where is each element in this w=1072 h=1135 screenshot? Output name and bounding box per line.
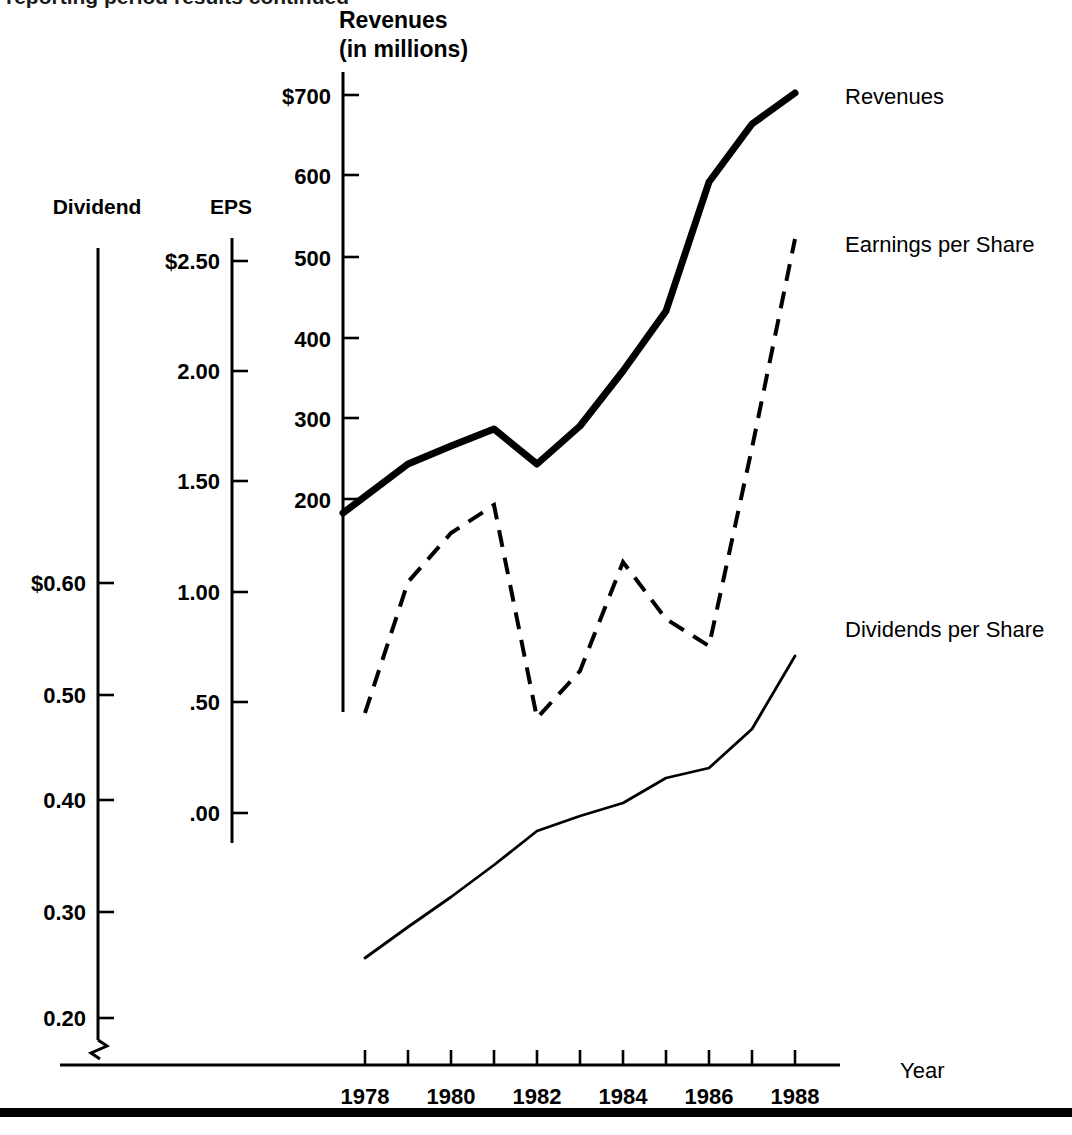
year-tick-label-0: 1978 — [341, 1084, 390, 1109]
year-tick-label-1: 1980 — [427, 1084, 476, 1109]
eps-label: Earnings per Share — [845, 232, 1035, 257]
dividend-tick-label-4: 0.20 — [43, 1006, 86, 1031]
revenues-tick-label-1: 600 — [294, 164, 331, 189]
revenues-tick-label-4: 300 — [294, 407, 331, 432]
revenues-label: Revenues — [845, 84, 944, 109]
revenues-tick-label-3: 400 — [294, 327, 331, 352]
revenues-tick-label-5: 200 — [294, 488, 331, 513]
bottom-rule — [0, 1108, 1072, 1117]
year-axis-title: Year — [900, 1058, 944, 1083]
eps-tick-label-3: 1.00 — [177, 580, 220, 605]
dividend-tick-label-1: 0.50 — [43, 683, 86, 708]
revenues-tick-label-0: $700 — [282, 84, 331, 109]
year-tick-label-2: 1982 — [513, 1084, 562, 1109]
year-tick-label-4: 1986 — [685, 1084, 734, 1109]
eps-tick-label-4: .50 — [189, 690, 220, 715]
dividend-tick-label-3: 0.30 — [43, 900, 86, 925]
labels-group: $0.600.500.400.300.20Dividend$2.502.001.… — [31, 7, 1044, 1109]
series-group — [343, 93, 795, 958]
eps-series-line — [365, 239, 795, 718]
dividends-label: Dividends per Share — [845, 617, 1044, 642]
dividend-axis-title: Dividend — [53, 195, 142, 218]
dividends-series-line — [365, 656, 795, 958]
eps-axis-title: EPS — [210, 195, 252, 218]
eps-tick-label-0: $2.50 — [165, 249, 220, 274]
year-tick-label-3: 1984 — [599, 1084, 649, 1109]
figure-canvas: reporting period results continued $0.60… — [0, 0, 1072, 1135]
axes-group — [60, 72, 840, 1065]
year-tick-label-5: 1988 — [771, 1084, 820, 1109]
line-chart: $0.600.500.400.300.20Dividend$2.502.001.… — [0, 0, 1072, 1135]
revenues-series-line — [343, 93, 795, 513]
revenues-axis-title-line2: (in millions) — [339, 36, 468, 62]
eps-tick-label-2: 1.50 — [177, 469, 220, 494]
revenues-tick-label-2: 500 — [294, 246, 331, 271]
axis-break-symbol — [91, 1040, 107, 1059]
eps-tick-label-5: .00 — [189, 801, 220, 826]
dividend-tick-label-2: 0.40 — [43, 788, 86, 813]
eps-tick-label-1: 2.00 — [177, 359, 220, 384]
dividend-tick-label-0: $0.60 — [31, 571, 86, 596]
revenues-axis-title-line1: Revenues — [339, 7, 448, 33]
